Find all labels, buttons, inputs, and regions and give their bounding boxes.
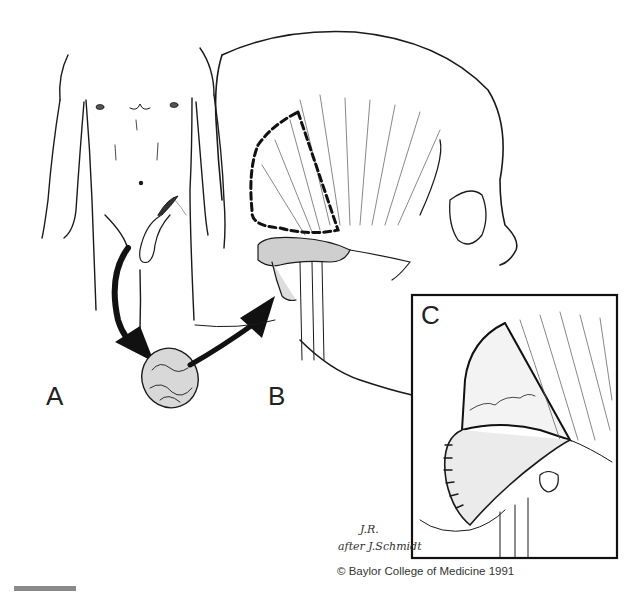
medical-illustration (0, 0, 644, 599)
flap-outline-dashed (251, 112, 338, 233)
panel-label-a: A (46, 383, 63, 409)
scale-bar (14, 586, 76, 591)
torso-figure (42, 48, 225, 330)
panel-label-c: C (421, 302, 440, 328)
copyright-notice: © Baylor College of Medicine 1991 (337, 565, 514, 577)
skull-base-tissue (258, 237, 410, 360)
artist-initials: J.R. (360, 524, 379, 536)
panel-label-b: B (268, 383, 285, 409)
artist-credit: after J.Schmidt (338, 541, 422, 553)
